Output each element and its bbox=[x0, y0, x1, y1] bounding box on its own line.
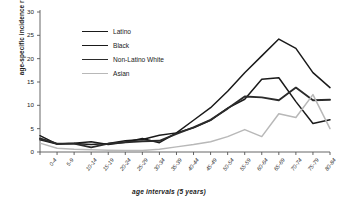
legend-label: Black bbox=[113, 42, 129, 49]
series-line-non-latino-white bbox=[40, 88, 330, 148]
y-axis-tick-label: 10 bbox=[14, 101, 34, 108]
incidence-rate-line-chart: 051015202530 0-45-910-1415-1920-2425-293… bbox=[0, 0, 338, 207]
x-axis-title: age intervals (5 years) bbox=[0, 188, 338, 195]
series-line-black bbox=[40, 78, 330, 145]
y-axis-tick-label: 5 bbox=[14, 125, 34, 132]
y-axis-title-text: age-specific incidence rate bbox=[18, 0, 25, 75]
axes bbox=[37, 10, 330, 155]
legend-label: Non-Latino White bbox=[113, 56, 164, 63]
legend-item-asian: Asian bbox=[82, 69, 130, 78]
legend-label: Latino bbox=[113, 28, 131, 35]
legend-item-black: Black bbox=[82, 41, 129, 50]
legend-swatch bbox=[82, 73, 108, 74]
legend-label: Asian bbox=[113, 70, 130, 77]
legend-item-non-latino-white: Non-Latino White bbox=[82, 55, 164, 64]
legend-swatch bbox=[82, 45, 108, 46]
y-axis-title: age-specific incidence rate bbox=[10, 0, 24, 98]
legend-item-latino: Latino bbox=[82, 27, 131, 36]
legend-swatch bbox=[82, 59, 108, 60]
legend-swatch bbox=[82, 31, 108, 32]
plot-area bbox=[0, 0, 338, 207]
y-axis-tick-label: 0 bbox=[14, 148, 34, 155]
